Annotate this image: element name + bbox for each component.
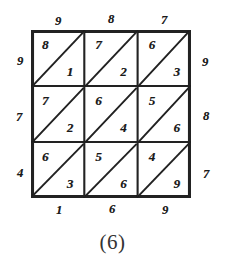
grid-cell-r1c1: 8 1	[31, 30, 84, 86]
cell-digit-lower-r1c3: 3	[173, 65, 180, 78]
cell-digit-upper-r1c2: 7	[95, 38, 102, 51]
cell-digit-lower-r2c1: 2	[67, 121, 74, 134]
edge-label-right-1: 9	[198, 56, 212, 69]
cell-digit-upper-r1c3: 6	[149, 38, 156, 51]
cell-digit-upper-r3c3: 4	[149, 150, 156, 163]
edge-label-left-2: 7	[12, 111, 26, 124]
grid-cell-r2c2: 6 4	[84, 86, 137, 142]
figure-container: 9 8 7 9 7 4 9 8 7 1 6 9	[0, 0, 225, 275]
edge-label-left-1: 9	[13, 55, 27, 68]
cell-digit-lower-r3c3: 9	[173, 177, 180, 190]
edge-label-top-3: 7	[155, 14, 173, 27]
cell-digit-upper-r3c1: 6	[42, 150, 49, 163]
grid-cell-r3c1: 6 3	[31, 142, 84, 198]
cell-digit-lower-r2c2: 4	[120, 121, 127, 134]
edge-label-top-1: 9	[49, 15, 67, 28]
magic-square-grid: 8 1 7 2 6 3 7 2 6 4 5 6 6 3 5	[31, 30, 191, 198]
cell-digit-lower-r1c2: 2	[120, 65, 127, 78]
grid-cell-r2c1: 7 2	[31, 86, 84, 142]
cell-digit-upper-r3c2: 5	[95, 150, 102, 163]
cell-digit-lower-r2c3: 6	[173, 121, 180, 134]
edge-label-left-3: 4	[13, 167, 27, 180]
cell-digit-lower-r1c1: 1	[67, 65, 74, 78]
cell-digit-lower-r3c2: 6	[120, 177, 127, 190]
edge-label-right-2: 8	[199, 110, 213, 123]
edge-label-bottom-3: 9	[156, 204, 174, 217]
grid-cell-r1c3: 6 3	[138, 30, 191, 86]
cell-digit-upper-r1c1: 8	[42, 38, 49, 51]
cell-digit-upper-r2c2: 6	[95, 94, 102, 107]
grid-cell-r2c3: 5 6	[138, 86, 191, 142]
edge-label-top-2: 8	[102, 13, 120, 26]
grid-cell-r1c2: 7 2	[84, 30, 137, 86]
edge-label-bottom-2: 6	[103, 203, 121, 216]
grid-cell-r3c3: 4 9	[138, 142, 191, 198]
figure-caption: (6)	[0, 232, 225, 253]
edge-label-right-3: 7	[199, 168, 213, 181]
grid-cell-r3c2: 5 6	[84, 142, 137, 198]
cell-digit-upper-r2c1: 7	[42, 94, 49, 107]
cell-digit-lower-r3c1: 3	[67, 177, 74, 190]
cell-digit-upper-r2c3: 5	[149, 94, 156, 107]
edge-label-bottom-1: 1	[50, 204, 68, 217]
